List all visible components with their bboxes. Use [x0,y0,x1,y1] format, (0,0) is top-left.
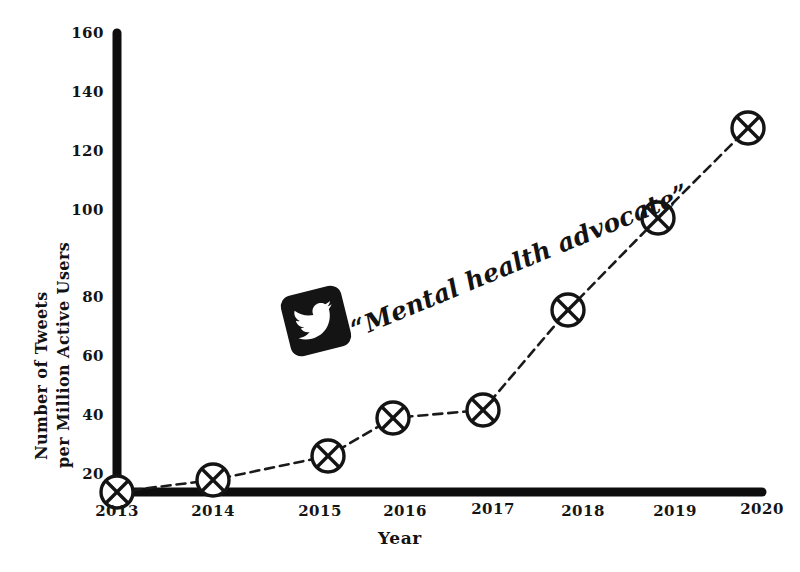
x-tick-2014: 2014 [191,502,235,520]
x-tick-2015: 2015 [298,502,342,520]
data-point-2015[interactable] [312,440,344,472]
chart-container: “Mental health advocate” 160 140 120 100… [0,0,800,572]
data-point-2018[interactable] [552,294,584,326]
y-axis-title-line-2: per Million Active Users [54,242,73,468]
data-point-2020[interactable] [732,112,764,144]
data-point-2014[interactable] [197,464,229,496]
chart-canvas [0,0,800,572]
y-axis-title: Number of Tweets per Million Active User… [10,60,70,460]
x-tick-2016: 2016 [383,502,427,520]
data-point-2017[interactable] [467,394,499,426]
x-tick-2017: 2017 [471,500,515,518]
x-tick-2020: 2020 [740,500,784,518]
x-tick-2019: 2019 [653,502,697,520]
x-tick-2013: 2013 [95,502,139,520]
y-tick-160: 160 [58,24,104,42]
x-axis-title: Year [378,528,422,548]
y-axis-title-line-1: Number of Tweets [32,291,51,460]
x-tick-2018: 2018 [561,502,605,520]
data-point-2016[interactable] [377,402,409,434]
